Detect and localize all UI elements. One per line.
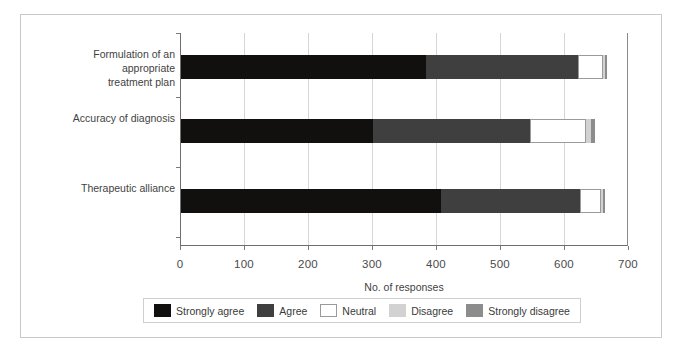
bar-row	[181, 189, 605, 213]
x-tick-label: 0	[177, 258, 184, 270]
category-label: Therapeutic alliance	[81, 181, 175, 195]
x-tick-label: 200	[298, 258, 318, 270]
bar-segment	[578, 55, 603, 79]
bar-segment	[441, 189, 580, 213]
bar-segment	[530, 119, 586, 143]
plot-right-border	[627, 33, 628, 246]
legend-item[interactable]: Agree	[257, 304, 307, 317]
bar-segment	[181, 119, 373, 143]
bar-segment	[605, 55, 607, 79]
x-tick-label: 500	[490, 258, 510, 270]
bar-row	[181, 119, 595, 143]
x-tick-label: 400	[426, 258, 446, 270]
x-axis-line	[180, 245, 628, 246]
category-label: Accuracy of diagnosis	[73, 111, 175, 125]
bar-row	[181, 55, 607, 79]
category-label: Formulation of an appropriate treatment …	[49, 47, 175, 89]
legend-item[interactable]: Neutral	[320, 304, 376, 317]
y-tick	[176, 237, 180, 238]
legend-swatch	[257, 304, 274, 317]
bar-segment	[426, 55, 578, 79]
y-tick	[176, 97, 180, 98]
bar-segment	[181, 189, 441, 213]
legend-label: Disagree	[411, 305, 453, 317]
legend-item[interactable]: Strongly disagree	[466, 304, 570, 317]
bar-segment	[373, 119, 530, 143]
legend-swatch	[466, 304, 483, 317]
x-tick	[436, 246, 437, 250]
x-tick	[564, 246, 565, 250]
plot-area: 0100200300400500600700 No. of responses	[180, 33, 628, 246]
bar-segment	[580, 189, 601, 213]
legend-swatch	[389, 304, 406, 317]
legend-item[interactable]: Strongly agree	[154, 304, 244, 317]
bar-segment	[603, 189, 606, 213]
x-tick-label: 100	[234, 258, 254, 270]
x-tick	[372, 246, 373, 250]
x-tick	[308, 246, 309, 250]
legend-swatch	[154, 304, 171, 317]
category-axis-labels: Formulation of an appropriate treatment …	[49, 33, 175, 246]
x-axis-title: No. of responses	[180, 281, 628, 293]
chart-legend: Strongly agreeAgreeNeutralDisagreeStrong…	[143, 298, 581, 323]
chart-figure: Formulation of an appropriate treatment …	[20, 14, 662, 338]
x-tick	[500, 246, 501, 250]
legend-label: Neutral	[342, 305, 376, 317]
x-tick	[628, 246, 629, 250]
bar-segment	[181, 55, 426, 79]
x-tick-label: 600	[554, 258, 574, 270]
bar-segment	[591, 119, 595, 143]
y-tick	[176, 33, 180, 34]
y-tick	[176, 167, 180, 168]
x-tick	[180, 246, 181, 250]
legend-label: Strongly disagree	[488, 305, 570, 317]
legend-label: Agree	[279, 305, 307, 317]
x-tick	[244, 246, 245, 250]
x-tick-label: 700	[618, 258, 638, 270]
x-tick-label: 300	[362, 258, 382, 270]
legend-label: Strongly agree	[176, 305, 244, 317]
legend-swatch	[320, 304, 337, 317]
legend-item[interactable]: Disagree	[389, 304, 453, 317]
